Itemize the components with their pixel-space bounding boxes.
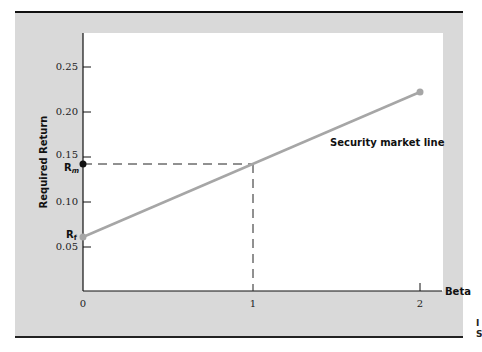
rm-label: Rm xyxy=(64,162,79,175)
cropped-text-fragment: I xyxy=(476,318,479,328)
y-tick-label: 0.10 xyxy=(56,196,78,207)
y-ticks xyxy=(83,67,91,247)
y-tick-label: 0.20 xyxy=(56,106,78,117)
y-axis-title: Required Return xyxy=(38,116,49,209)
x-tick-label: 2 xyxy=(417,298,423,309)
chart-svg: 0.25 0.20 0.15 0.10 0.05 0 1 2 Beta Requ… xyxy=(0,0,482,352)
x-tick-label: 1 xyxy=(250,298,256,309)
rm-point xyxy=(80,161,87,168)
x-tick-label: 0 xyxy=(80,298,86,309)
y-tick-label: 0.25 xyxy=(56,61,78,72)
sml-endpoint xyxy=(417,89,424,96)
y-tick-label: 0.05 xyxy=(56,241,78,252)
x-axis-title: Beta xyxy=(445,286,471,297)
cropped-text-fragment: S xyxy=(476,329,482,339)
sml-annotation: Security market line xyxy=(330,137,445,148)
y-tick-label: 0.15 xyxy=(56,149,78,160)
rf-point xyxy=(80,234,87,241)
